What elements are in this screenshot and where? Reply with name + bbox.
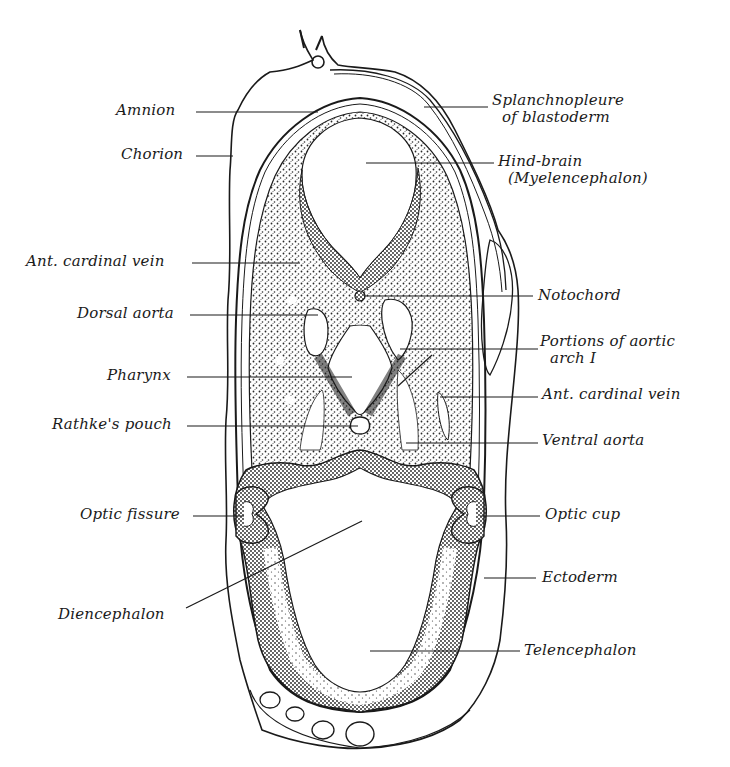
label-amnion: Amnion: [116, 102, 175, 119]
label-pharynx: Pharynx: [107, 367, 171, 384]
label-hind-brain-line1: Hind-brain: [498, 152, 582, 170]
label-aortic-arch-line2: arch I: [540, 350, 675, 367]
label-hind-brain-line2: (Myelencephalon): [498, 170, 648, 187]
label-optic-cup: Optic cup: [545, 506, 620, 523]
label-notochord: Notochord: [538, 287, 621, 304]
label-dorsal-aorta: Dorsal aorta: [77, 305, 174, 322]
label-ant-cardinal-vein-right: Ant. cardinal vein: [542, 386, 681, 403]
dorsal-aorta: [304, 309, 328, 356]
label-ectoderm: Ectoderm: [542, 569, 618, 586]
label-aortic-arch: Portions of aortic arch I: [540, 333, 675, 367]
notochord: [355, 291, 365, 301]
label-telencephalon: Telencephalon: [524, 642, 637, 659]
label-optic-fissure: Optic fissure: [80, 506, 180, 523]
label-ant-cardinal-vein-left: Ant. cardinal vein: [26, 253, 165, 270]
label-chorion: Chorion: [121, 146, 183, 163]
label-splanchnopleure-line2: of blastoderm: [492, 109, 624, 126]
label-splanchnopleure-line1: Splanchnopleure: [492, 91, 624, 109]
label-rathkes-pouch: Rathke's pouch: [52, 416, 172, 433]
label-hind-brain: Hind-brain (Myelencephalon): [498, 153, 648, 187]
label-ventral-aorta: Ventral aorta: [542, 432, 644, 449]
label-diencephalon: Diencephalon: [58, 606, 165, 623]
label-splanchnopleure: Splanchnopleure of blastoderm: [492, 92, 624, 126]
label-aortic-arch-line1: Portions of aortic: [540, 332, 675, 350]
